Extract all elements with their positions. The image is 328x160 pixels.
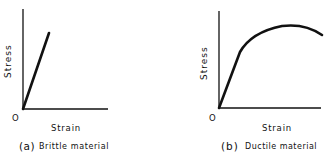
- ductile-curve: [219, 25, 322, 108]
- x-axis-label: Strain: [262, 123, 292, 133]
- x-axis-label: Strain: [51, 123, 81, 133]
- caption-text: Ductile material: [245, 142, 317, 151]
- brittle-curve: [23, 33, 49, 109]
- origin-label: O: [12, 113, 19, 123]
- panel-ductile: Stress O Strain (b) Ductile material: [199, 11, 322, 152]
- origin-label: O: [209, 113, 216, 123]
- stress-strain-diagrams: Stress O Strain (a) Brittle material Str…: [0, 0, 328, 160]
- caption-prefix: (a): [19, 140, 35, 152]
- caption-prefix: (b): [221, 140, 239, 152]
- caption-text: Brittle material: [39, 142, 109, 151]
- panel-brittle: Stress O Strain (a) Brittle material: [3, 9, 109, 152]
- y-axis-label: Stress: [3, 44, 13, 78]
- y-axis-label: Stress: [199, 46, 209, 80]
